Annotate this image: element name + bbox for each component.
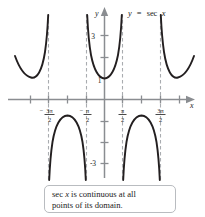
fraction-numerator: π xyxy=(121,107,125,114)
curve-branch-right-outer-upper xyxy=(161,15,194,78)
x-axis: x xyxy=(8,96,195,111)
x-tick-labels: − 3π 2 − π 2 π 2 3π 2 xyxy=(40,107,166,123)
sec-x-graph-figure: x y 3 1 -3 − 3π xyxy=(0,0,205,217)
fraction-sign: − xyxy=(40,107,44,114)
title-y: y xyxy=(127,9,132,18)
caption-box: sec x is continuous at all points of its… xyxy=(44,185,176,213)
curve-branch-left-outer-upper xyxy=(15,15,48,78)
fraction-denominator: 2 xyxy=(86,116,89,123)
y-axis-label: y xyxy=(94,9,99,18)
title-equals: = xyxy=(137,9,142,18)
y-tick-label-3: 3 xyxy=(91,32,95,41)
fraction-sign: − xyxy=(80,107,84,114)
title-var: x xyxy=(161,9,166,18)
fraction-denominator: 2 xyxy=(48,116,51,123)
y-tick-label-neg3: -3 xyxy=(90,159,96,168)
fraction-numerator: 3π xyxy=(46,107,53,114)
fraction-denominator: 2 xyxy=(121,116,124,123)
curve-branch-right-inner-lower xyxy=(123,116,160,181)
curve-branch-left-inner-lower xyxy=(49,116,86,181)
x-tick-label-pi-over-2: π 2 xyxy=(119,107,127,123)
y-axis: y xyxy=(94,7,109,178)
y-axis-arrowhead xyxy=(101,7,108,16)
caption-line-1: sec x is continuous at all xyxy=(52,189,169,200)
title-func: sec xyxy=(147,9,158,18)
fraction-numerator: 3π xyxy=(157,107,164,114)
x-tick-label-neg-pi-over-2: − π 2 xyxy=(80,107,92,123)
x-tick-label-3pi-over-2: 3π 2 xyxy=(156,107,166,123)
x-axis-label: x xyxy=(189,101,194,110)
caption-line-2: points of its domain. xyxy=(52,200,169,211)
x-tick-label-neg-3pi-over-2: − 3π 2 xyxy=(40,107,55,123)
fraction-denominator: 2 xyxy=(159,116,162,123)
fraction-numerator: π xyxy=(86,107,90,114)
caption-pre: sec xyxy=(52,189,65,199)
caption-post: is continuous at all xyxy=(69,189,136,199)
